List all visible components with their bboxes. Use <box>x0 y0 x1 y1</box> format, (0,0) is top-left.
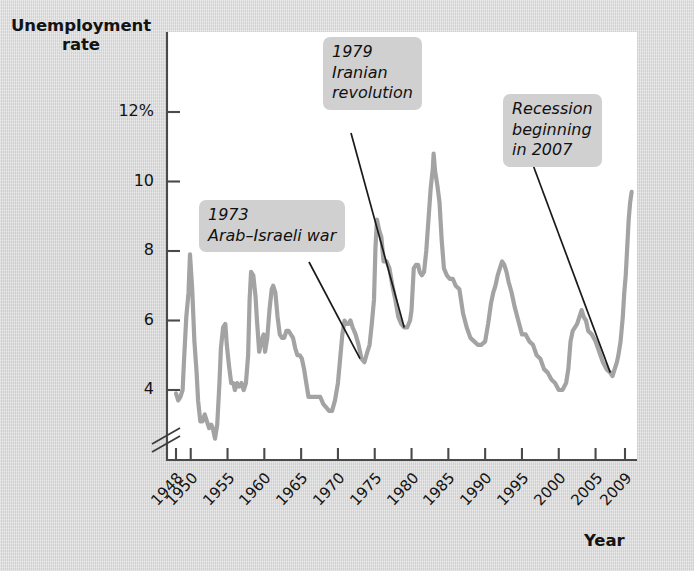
annotation-line: beginning <box>512 120 593 141</box>
annotation-line: Recession <box>512 99 593 120</box>
annotation-line: Iranian <box>332 63 413 84</box>
annotation-arab-israeli-war: 1973Arab–Israeli war <box>199 200 345 252</box>
annotation-line: 1979 <box>332 42 413 63</box>
unemployment-rate-chart: Unemployment rate Year 12%10864 19481950… <box>0 0 694 571</box>
y-axis-title: Unemployment rate <box>6 16 156 54</box>
y-tick-label: 6 <box>84 310 154 329</box>
annotation-line: 1973 <box>208 205 336 226</box>
y-tick-label: 12% <box>84 101 154 120</box>
annotation-recession-2007: Recessionbeginningin 2007 <box>503 94 602 167</box>
annotation-iranian-revolution: 1979Iranianrevolution <box>323 37 422 110</box>
y-tick-label: 4 <box>84 379 154 398</box>
annotation-line: in 2007 <box>512 140 593 161</box>
y-axis-title-line1: Unemployment <box>11 16 151 35</box>
y-tick-label: 10 <box>84 171 154 190</box>
annotation-line: revolution <box>332 83 413 104</box>
x-axis-title: Year <box>584 531 625 550</box>
y-axis-title-line2: rate <box>6 35 156 54</box>
y-tick-label: 8 <box>84 240 154 259</box>
annotation-line: Arab–Israeli war <box>208 226 336 247</box>
